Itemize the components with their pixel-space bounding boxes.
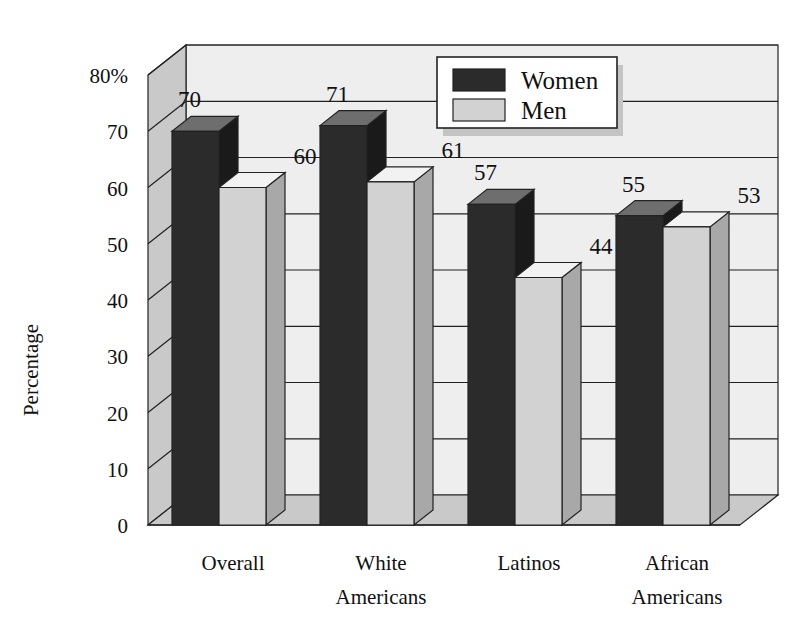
bar-front-face (468, 204, 515, 525)
y-tick-label: 30 (107, 345, 128, 369)
y-tick-label: 20 (107, 402, 128, 426)
bar-front-face (515, 278, 562, 526)
bar-value-label: 70 (178, 87, 201, 112)
bar-side-face (266, 173, 285, 526)
legend-item[interactable]: Women (453, 67, 599, 94)
category-label: African (645, 551, 710, 575)
bar-3d (515, 263, 581, 526)
legend-label: Women (521, 67, 599, 94)
category-label: Overall (202, 551, 265, 575)
bar-value-label: 71 (326, 82, 349, 107)
bar-side-face (414, 167, 433, 525)
bar-front-face (616, 216, 663, 525)
y-tick-label: 80% (90, 64, 129, 88)
chart-container: 01020304050607080% Percentage 7060716157… (0, 0, 809, 626)
category-label: Latinos (498, 551, 561, 575)
bar-front-face (320, 126, 367, 525)
y-tick-label: 40 (107, 289, 128, 313)
category-label: White (355, 551, 406, 575)
legend-swatch (453, 69, 505, 91)
y-axis-ticks: 01020304050607080% (90, 64, 129, 538)
y-tick-label: 50 (107, 233, 128, 257)
y-tick-label: 0 (118, 514, 129, 538)
category-label: Americans (336, 585, 427, 609)
legend-swatch (453, 99, 505, 121)
bar-front-face (172, 131, 219, 525)
bar-value-label: 55 (622, 172, 645, 197)
bar-value-label: 44 (590, 234, 614, 259)
bar-front-face (219, 188, 266, 526)
bar-value-label: 57 (474, 160, 497, 185)
bar-chart-3d: 01020304050607080% Percentage 7060716157… (0, 0, 809, 626)
x-axis-category-labels: OverallWhiteAmericansLatinosAfricanAmeri… (202, 551, 723, 609)
y-tick-label: 10 (107, 458, 128, 482)
bar-value-label: 53 (738, 183, 761, 208)
bar-3d (663, 212, 729, 525)
chart-legend[interactable]: WomenMen (437, 57, 623, 136)
bar-front-face (367, 182, 414, 525)
y-tick-label: 60 (107, 177, 128, 201)
y-axis-title: Percentage (19, 324, 43, 416)
bar-front-face (663, 227, 710, 525)
bar-value-label: 61 (442, 138, 465, 163)
bar-side-face (710, 212, 729, 525)
bar-3d (219, 173, 285, 526)
y-tick-label: 70 (107, 120, 128, 144)
bar-3d (367, 167, 433, 525)
bar-value-label: 60 (294, 144, 317, 169)
legend-label: Men (521, 97, 567, 124)
category-label: Americans (632, 585, 723, 609)
bar-side-face (562, 263, 581, 526)
